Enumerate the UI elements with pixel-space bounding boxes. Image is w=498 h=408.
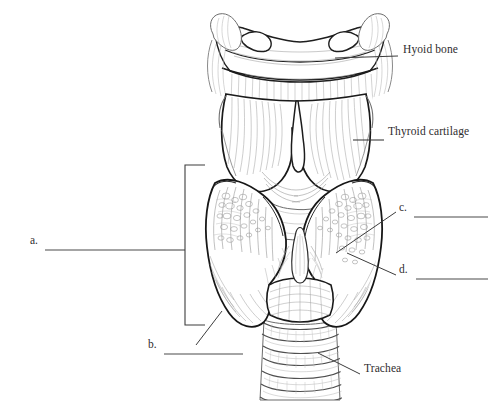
hyoid-greater-horn-left <box>211 14 242 51</box>
leader-b <box>196 311 222 345</box>
thyroid-gland-isthmus <box>267 278 333 322</box>
trachea <box>260 320 344 405</box>
hyoid-greater-horn-right <box>359 14 390 51</box>
label-letter-d: d. <box>399 263 408 275</box>
label-letter-b: b. <box>148 338 157 350</box>
label-hyoid-bone: Hyoid bone <box>403 43 458 55</box>
anatomy-illustration <box>0 0 498 408</box>
anatomy-figure: Hyoid bone Thyroid cartilage Trachea a. … <box>0 0 498 408</box>
label-letter-c: c. <box>399 201 407 213</box>
label-thyroid-cartilage: Thyroid cartilage <box>388 125 469 137</box>
bracket-a <box>150 165 205 325</box>
hyoid-bone <box>208 14 393 97</box>
label-letter-a: a. <box>30 234 38 246</box>
label-trachea: Trachea <box>364 362 401 374</box>
